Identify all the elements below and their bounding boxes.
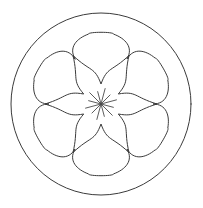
rosette-figure: Geometric rosette line drawing	[0, 0, 203, 208]
drawing-canvas: Geometric rosette line drawing	[0, 0, 203, 208]
